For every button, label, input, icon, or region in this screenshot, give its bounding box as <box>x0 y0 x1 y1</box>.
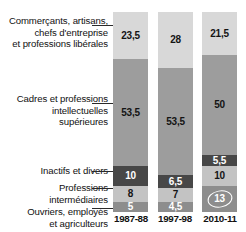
category-label-professions-intermediaires-line2: intermédiaires <box>49 194 108 206</box>
segment-cadres-1987-88[interactable]: 53,5 <box>113 59 148 166</box>
segment-value: 5,5 <box>213 156 226 166</box>
x-axis-tick-1987-88: 1987-88 <box>109 213 153 224</box>
category-label-commercants: Commerçants, artisans, chefs d'entrepris… <box>9 15 108 50</box>
segment-value: 13 <box>214 194 225 204</box>
segment-value: 10 <box>125 171 136 181</box>
segment-value: 53,5 <box>166 117 185 127</box>
segment-professions-intermediaires-1997-98[interactable]: 7 <box>158 188 193 202</box>
segment-value: 23,5 <box>121 31 140 41</box>
segment-ouvriers-2010-11[interactable]: 13 <box>202 186 237 212</box>
segment-cadres-2010-11[interactable]: 50 <box>202 55 237 155</box>
category-label-professions-intermediaires: Professions intermédiaires <box>49 182 108 205</box>
category-label-cadres-line3: supérieures <box>17 116 108 128</box>
segment-commercants-1987-88[interactable]: 23,5 <box>113 12 148 59</box>
segment-value: 6,5 <box>169 177 182 187</box>
segment-value: 21,5 <box>210 29 229 39</box>
segment-professions-intermediaires-1987-88[interactable]: 8 <box>113 186 148 202</box>
segment-value: 4,5 <box>169 202 182 212</box>
category-label-commercants-line2: chefs d'entreprise <box>9 27 108 39</box>
bars-area: 23,5 53,5 10 8 5 28 53,5 6,5 <box>110 0 246 232</box>
segment-professions-intermediaires-2010-11[interactable]: 10 <box>202 166 237 186</box>
category-label-cadres: Cadres et professions intellectuelles su… <box>17 93 108 128</box>
segment-ouvriers-1997-98[interactable]: 4,5 <box>158 202 193 212</box>
segment-commercants-2010-11[interactable]: 21,5 <box>202 12 237 55</box>
segment-value: 50 <box>214 100 225 110</box>
segment-value: 53,5 <box>121 108 140 118</box>
segment-commercants-1997-98[interactable]: 28 <box>158 12 193 68</box>
bar-1997-98[interactable]: 28 53,5 6,5 7 4,5 <box>158 12 193 212</box>
segment-cadres-1997-98[interactable]: 53,5 <box>158 68 193 175</box>
category-legend-labels: Commerçants, artisans, chefs d'entrepris… <box>0 0 110 232</box>
bar-2010-11[interactable]: 21,5 50 5,5 10 13 <box>202 12 237 212</box>
category-label-commercants-line3: et professions libérales <box>9 38 108 50</box>
x-axis-tick-2010-11: 2010-11 <box>198 213 242 224</box>
segment-value: 28 <box>170 35 181 45</box>
segment-value: 10 <box>214 171 225 181</box>
x-axis-labels: 1987-88 1997-98 2010-11 <box>110 213 246 231</box>
stacked-bar-chart: Commerçants, artisans, chefs d'entrepris… <box>0 0 246 232</box>
segment-inactifs-2010-11[interactable]: 5,5 <box>202 155 237 166</box>
bar-1987-88[interactable]: 23,5 53,5 10 8 5 <box>113 12 148 212</box>
segment-value: 5 <box>128 202 133 212</box>
category-label-ouvriers-line2: et agriculteurs <box>27 218 108 230</box>
segment-ouvriers-1987-88[interactable]: 5 <box>113 202 148 212</box>
segment-value: 8 <box>128 189 133 199</box>
segment-value: 7 <box>173 190 178 200</box>
segment-inactifs-1987-88[interactable]: 10 <box>113 166 148 186</box>
x-axis-tick-1997-98: 1997-98 <box>153 213 197 224</box>
segment-inactifs-1997-98[interactable]: 6,5 <box>158 175 193 188</box>
category-label-ouvriers: Ouvriers, employés et agriculteurs <box>27 206 108 229</box>
category-label-cadres-line2: intellectuelles <box>17 105 108 117</box>
